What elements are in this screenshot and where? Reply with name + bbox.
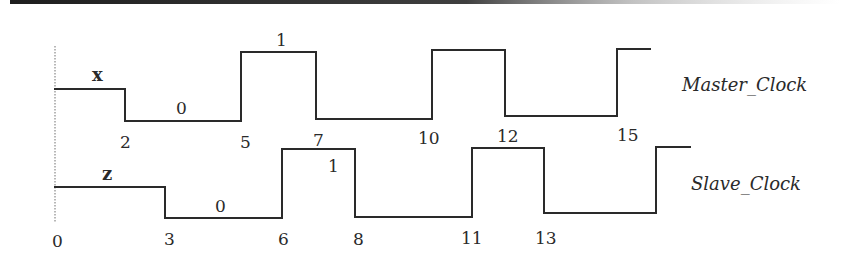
slave-tick-0: 0 [52, 231, 63, 251]
master-tick-15: 15 [617, 125, 639, 145]
master-clock-waveform [54, 49, 651, 121]
master-clock-name: Master_Clock [681, 74, 807, 96]
master-tick-5: 5 [240, 132, 251, 152]
slave-clock-waveform [54, 147, 691, 218]
slave-tick-8: 8 [353, 229, 364, 249]
slave-tick-6: 6 [278, 229, 289, 249]
master-tick-10: 10 [418, 128, 440, 148]
slave-clock-name: Slave_Clock [691, 173, 801, 195]
slave-initial-value: z [102, 163, 112, 184]
slave-tick-11: 11 [461, 228, 483, 248]
slave-value-zero: 0 [215, 196, 226, 216]
slave-value-one: 1 [328, 156, 339, 176]
master-value-one: 1 [276, 30, 287, 50]
master-tick-7: 7 [313, 130, 324, 150]
master-initial-value: x [92, 64, 103, 85]
slave-tick-13: 13 [535, 228, 557, 248]
slave-tick-3: 3 [164, 229, 175, 249]
top-rule [10, 0, 840, 4]
master-tick-12: 12 [497, 126, 519, 146]
master-value-zero: 0 [176, 98, 187, 118]
timing-diagram: x 0 1 2 5 7 10 12 15 Master_Clock z 0 1 … [0, 0, 854, 274]
master-tick-2: 2 [120, 132, 131, 152]
